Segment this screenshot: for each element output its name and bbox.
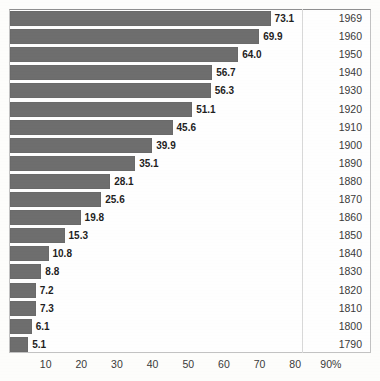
- year-label: 1790: [304, 338, 362, 351]
- year-label: 1920: [304, 103, 362, 116]
- bar: [10, 283, 36, 298]
- year-label: 1800: [304, 320, 362, 333]
- x-axis-tick-label: 90%: [320, 358, 341, 371]
- bar-value-label: 5.1: [32, 338, 46, 351]
- year-label: 1930: [304, 84, 362, 97]
- year-label: 1900: [304, 139, 362, 152]
- year-label: 1840: [304, 247, 362, 260]
- bar: [10, 264, 41, 279]
- bar: [10, 120, 173, 135]
- bar-value-label: 7.3: [40, 302, 54, 315]
- bar: [10, 210, 81, 225]
- year-label: 1940: [304, 66, 362, 79]
- bar: [10, 174, 110, 189]
- bar: [10, 29, 259, 44]
- bar-value-label: 56.3: [215, 84, 234, 97]
- bar: [10, 192, 101, 207]
- bar-value-label: 69.9: [263, 30, 282, 43]
- x-axis-tick-label: 30: [111, 358, 123, 371]
- bar-value-label: 73.1: [275, 12, 294, 25]
- year-label: 1969: [304, 12, 362, 25]
- bar-value-label: 56.7: [216, 66, 235, 79]
- bar: [10, 65, 212, 80]
- bar: [10, 301, 36, 316]
- year-label: 1820: [304, 284, 362, 297]
- year-label: 1830: [304, 265, 362, 278]
- year-label: 1850: [304, 229, 362, 242]
- bar-value-label: 35.1: [139, 157, 158, 170]
- x-axis-tick-label: 60: [218, 358, 230, 371]
- bar-chart-figure: 73.169.964.056.756.351.145.639.935.128.1…: [0, 0, 380, 381]
- x-axis-tick-label: 80: [289, 358, 301, 371]
- bar: [10, 228, 65, 243]
- year-label: 1910: [304, 121, 362, 134]
- x-axis-tick-label: 20: [75, 358, 87, 371]
- year-label: 1860: [304, 211, 362, 224]
- bar-value-label: 6.1: [36, 320, 50, 333]
- bar-value-label: 19.8: [85, 211, 104, 224]
- bar-value-label: 45.6: [177, 121, 196, 134]
- bar-value-label: 10.8: [53, 247, 72, 260]
- year-label: 1870: [304, 193, 362, 206]
- bar: [10, 337, 28, 352]
- bar: [10, 319, 32, 334]
- bar: [10, 156, 135, 171]
- x-axis-tick-label: 40: [147, 358, 159, 371]
- bar: [10, 47, 238, 62]
- bar-value-label: 51.1: [196, 103, 215, 116]
- x-axis-tick-label: 70: [254, 358, 266, 371]
- bar: [10, 102, 192, 117]
- x-axis-tick-label: 10: [40, 358, 52, 371]
- bar-value-label: 28.1: [114, 175, 133, 188]
- bar-value-label: 25.6: [105, 193, 124, 206]
- bar: [10, 246, 49, 261]
- bar-value-label: 7.2: [40, 284, 54, 297]
- bar-value-label: 8.8: [45, 265, 59, 278]
- year-label: 1890: [304, 157, 362, 170]
- bar-value-label: 15.3: [69, 229, 88, 242]
- x-axis-tick-label: 50: [182, 358, 194, 371]
- bar-value-label: 39.9: [156, 139, 175, 152]
- year-label: 1950: [304, 48, 362, 61]
- year-label: 1810: [304, 302, 362, 315]
- bar: [10, 11, 271, 26]
- bar-value-label: 64.0: [242, 48, 261, 61]
- year-label: 1880: [304, 175, 362, 188]
- bar: [10, 83, 211, 98]
- chart-title: [0, 0, 380, 7]
- year-column-divider: [302, 9, 303, 353]
- bar: [10, 138, 152, 153]
- year-label: 1960: [304, 30, 362, 43]
